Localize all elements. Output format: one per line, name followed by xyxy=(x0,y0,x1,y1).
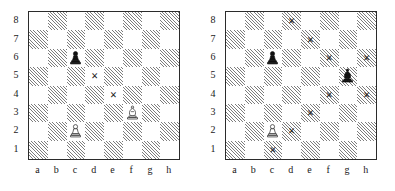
square-a8 xyxy=(29,12,48,30)
square-d4 xyxy=(85,86,104,104)
square-d8 xyxy=(85,12,104,30)
square-e7: × xyxy=(301,30,320,48)
file-label-d: d xyxy=(281,161,300,179)
square-e6 xyxy=(104,49,123,67)
rank-label-1: 1 xyxy=(8,140,24,158)
square-h8 xyxy=(160,12,179,30)
square-d3 xyxy=(85,104,104,122)
square-g1 xyxy=(339,141,358,159)
square-b7 xyxy=(48,30,67,48)
square-b7 xyxy=(245,30,264,48)
rank-label-2: 2 xyxy=(8,121,24,139)
square-a2 xyxy=(29,122,48,140)
square-b4 xyxy=(48,86,67,104)
square-g5 xyxy=(142,67,161,85)
square-c1: × xyxy=(264,141,283,159)
square-g8 xyxy=(339,12,358,30)
square-h3 xyxy=(160,104,179,122)
square-b5 xyxy=(48,67,67,85)
black-pawn-icon xyxy=(67,49,86,67)
file-label-g: g xyxy=(141,161,160,179)
file-label-f: f xyxy=(319,161,338,179)
square-d7 xyxy=(85,30,104,48)
square-b8 xyxy=(48,12,67,30)
rank-label-5: 5 xyxy=(205,66,221,84)
square-h8 xyxy=(357,12,376,30)
square-c6 xyxy=(264,49,283,67)
left-board: 87654321××abcdefgh xyxy=(0,0,197,191)
file-label-f: f xyxy=(122,161,141,179)
square-h5 xyxy=(357,67,376,85)
square-f6 xyxy=(123,49,142,67)
square-h3 xyxy=(357,104,376,122)
file-labels: abcdefgh xyxy=(28,161,178,179)
square-b2 xyxy=(245,122,264,140)
square-a5 xyxy=(226,67,245,85)
square-a7 xyxy=(29,30,48,48)
square-a1 xyxy=(226,141,245,159)
square-a6 xyxy=(29,49,48,67)
square-d2 xyxy=(85,122,104,140)
square-g6 xyxy=(339,49,358,67)
square-a4 xyxy=(29,86,48,104)
square-b3 xyxy=(245,104,264,122)
mark-x-glyph-d2: × xyxy=(288,125,295,137)
rank-label-2: 2 xyxy=(205,121,221,139)
rank-label-8: 8 xyxy=(8,11,24,29)
square-f3 xyxy=(123,104,142,122)
square-d1 xyxy=(85,141,104,159)
mark-x-glyph-e7: × xyxy=(307,33,314,45)
square-f1 xyxy=(123,141,142,159)
square-c4 xyxy=(264,86,283,104)
mark-x-glyph-d5: × xyxy=(91,70,98,82)
mark-x-icon: × xyxy=(357,86,376,104)
mark-x-glyph-e3: × xyxy=(307,107,314,119)
square-e3 xyxy=(104,104,123,122)
square-g2 xyxy=(142,122,161,140)
square-c1 xyxy=(67,141,86,159)
square-d6 xyxy=(282,49,301,67)
square-f4 xyxy=(123,86,142,104)
square-e7 xyxy=(104,30,123,48)
square-d6 xyxy=(85,49,104,67)
square-e5 xyxy=(301,67,320,85)
square-g3 xyxy=(142,104,161,122)
square-f7 xyxy=(320,30,339,48)
square-h4 xyxy=(160,86,179,104)
file-label-c: c xyxy=(263,161,282,179)
mark-x-glyph-h6: × xyxy=(363,51,370,63)
square-g8 xyxy=(142,12,161,30)
square-c5 xyxy=(67,67,86,85)
rank-label-5: 5 xyxy=(8,66,24,84)
mark-x-icon: × xyxy=(104,86,123,104)
white-pawn-icon xyxy=(264,122,283,140)
mark-x-icon: × xyxy=(282,12,301,30)
square-b5 xyxy=(245,67,264,85)
chessboard: ××××××××× xyxy=(225,11,377,160)
mark-x-glyph-f4: × xyxy=(326,88,333,100)
square-e8 xyxy=(104,12,123,30)
square-g5 xyxy=(339,67,358,85)
file-label-e: e xyxy=(300,161,319,179)
file-label-a: a xyxy=(225,161,244,179)
square-e2 xyxy=(301,122,320,140)
mark-x-icon: × xyxy=(320,49,339,67)
rank-labels: 87654321 xyxy=(205,11,221,158)
black-pawn-icon xyxy=(264,49,283,67)
square-c7 xyxy=(264,30,283,48)
square-c2 xyxy=(264,122,283,140)
mark-x-glyph-f6: × xyxy=(326,51,333,63)
rank-label-3: 3 xyxy=(205,103,221,121)
square-f3 xyxy=(320,104,339,122)
file-label-b: b xyxy=(47,161,66,179)
mark-x-icon: × xyxy=(320,86,339,104)
square-f7 xyxy=(123,30,142,48)
square-h1 xyxy=(160,141,179,159)
square-a4 xyxy=(226,86,245,104)
square-c7 xyxy=(67,30,86,48)
square-d4 xyxy=(282,86,301,104)
rank-label-1: 1 xyxy=(205,140,221,158)
black-bishop-icon xyxy=(339,67,358,85)
square-a5 xyxy=(29,67,48,85)
square-h7 xyxy=(160,30,179,48)
